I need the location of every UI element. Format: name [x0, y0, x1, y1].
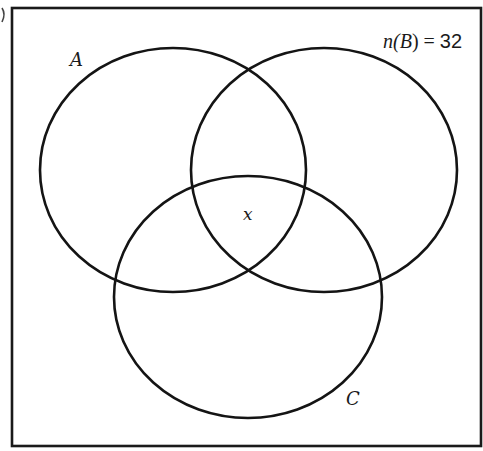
set-b-circle	[191, 48, 457, 292]
set-c-label: C	[346, 388, 360, 409]
triple-intersection-label: x	[243, 204, 253, 224]
set-a-circle	[40, 48, 306, 292]
cardinality-function: n(	[383, 30, 401, 53]
venn-diagram: A C x n(B) = 32	[0, 0, 483, 451]
cardinality-close: )	[412, 30, 419, 53]
cardinality-equals: =	[419, 30, 440, 52]
set-a-label: A	[68, 49, 83, 70]
universal-set-frame	[12, 8, 481, 446]
set-b-cardinality: n(B) = 32	[383, 30, 462, 53]
cardinality-set: B	[400, 30, 412, 52]
edge-artifact	[2, 8, 4, 22]
cardinality-value: 32	[440, 30, 462, 52]
